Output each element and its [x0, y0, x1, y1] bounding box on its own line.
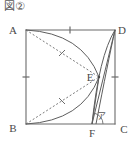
tick-segment-AE: [59, 50, 65, 56]
vertex-label-A: A: [9, 24, 17, 36]
geometry-diagram: A D B C E F ア: [0, 0, 132, 141]
vertex-label-C: C: [120, 123, 127, 135]
segment-AE: [26, 30, 99, 77]
segment-BE: [26, 77, 99, 124]
vertex-label-D: D: [118, 24, 126, 36]
angle-label-alpha: ア: [97, 111, 106, 121]
point-E-dot: [98, 76, 100, 78]
vertex-label-B: B: [9, 122, 16, 134]
point-label-E: E: [87, 71, 94, 83]
point-label-F: F: [89, 127, 95, 139]
geometry-figure-container: 図②: [0, 0, 132, 141]
tick-segment-BE: [59, 98, 65, 104]
